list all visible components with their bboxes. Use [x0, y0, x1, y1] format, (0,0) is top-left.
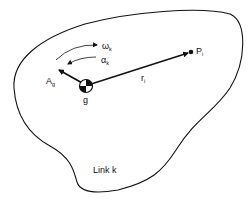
position-vector-label: ri	[141, 73, 145, 84]
angular-velocity-arc	[56, 45, 97, 60]
link-label: Link k	[93, 165, 117, 175]
cg-label: g	[83, 95, 88, 105]
link-outline	[14, 10, 243, 192]
diagram-canvas: ωk αk Ag g ri Pi Link k	[0, 0, 250, 201]
point-label: Pi	[196, 46, 203, 57]
alpha-label: αk	[101, 55, 109, 66]
link-diagram: ωk αk Ag g ri Pi Link k	[0, 0, 250, 201]
center-of-mass-icon	[80, 80, 93, 93]
point-p-dot	[189, 50, 194, 55]
acceleration-label: Ag	[46, 76, 55, 87]
angular-acceleration-arc	[68, 57, 96, 64]
omega-label: ωk	[102, 41, 112, 52]
